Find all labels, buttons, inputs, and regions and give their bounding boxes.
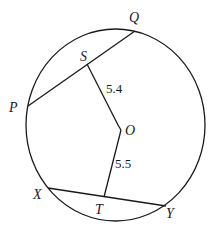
diagram-canvas: Q S P O X T Y 5.4 5.5 [0,0,214,235]
label-s: S [80,49,87,64]
label-p: P [8,100,18,115]
circle-diagram: Q S P O X T Y 5.4 5.5 [0,0,214,235]
circle [26,29,205,221]
label-t: T [95,202,104,217]
length-ot: 5.5 [115,156,131,171]
segment-os-end [118,125,121,130]
label-x: X [32,187,42,202]
label-q: Q [129,10,139,25]
label-o: O [125,123,135,138]
chord-xy [48,188,166,206]
length-os: 5.4 [106,81,123,96]
label-y: Y [166,206,176,221]
